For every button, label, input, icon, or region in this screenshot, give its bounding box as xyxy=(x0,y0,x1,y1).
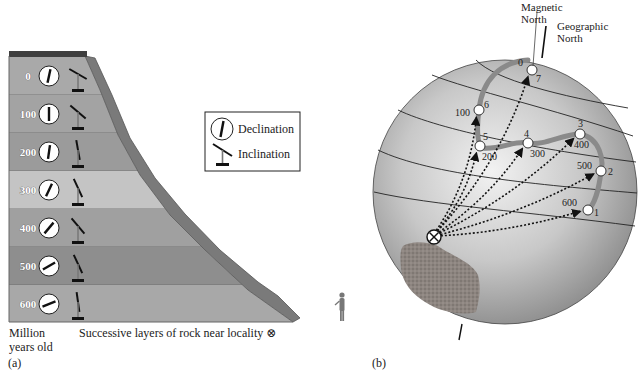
layer-age-label: 100 xyxy=(20,108,37,120)
legend-inclination-label: Inclination xyxy=(238,147,290,161)
legend-declination-label: Declination xyxy=(238,122,294,136)
geographic-axis-bottom xyxy=(459,324,462,340)
figure-canvas: 0100200300400500600 Declination Inclinat… xyxy=(0,0,639,380)
pole-index-label: 1 xyxy=(594,207,599,218)
pole-age-label: 500 xyxy=(577,160,592,171)
topsoil xyxy=(9,51,87,57)
pole-index-label: 5 xyxy=(483,131,488,142)
layer-age-label: 400 xyxy=(20,222,37,234)
pole-index-label: 6 xyxy=(484,99,489,110)
pole-index-label: 4 xyxy=(524,128,529,139)
pole-age-label: 400 xyxy=(574,139,589,150)
geographic-north-label-1: Geographic xyxy=(557,20,608,32)
rock-strata-cross-section: 0100200300400500600 xyxy=(9,51,309,323)
pole-index-label: 7 xyxy=(536,73,541,84)
layer-age-label: 0 xyxy=(25,70,31,82)
axis-label-years-old: years old xyxy=(9,340,53,354)
pole-index-label: 3 xyxy=(578,118,583,129)
legend: Declination Inclination xyxy=(205,112,300,171)
layer-age-label: 300 xyxy=(20,184,37,196)
magnetic-north-label-1: Magnetic xyxy=(521,1,563,13)
globe: 07100620053004400350026001 xyxy=(373,12,637,340)
pole-age-label: 100 xyxy=(455,107,470,118)
caption-successive-layers: Successive layers of rock near locality … xyxy=(79,326,276,340)
axis-label-million: Million xyxy=(9,326,45,340)
geographic-axis-top xyxy=(542,26,546,58)
layer-age-label: 600 xyxy=(20,298,37,310)
pole-age-label: 200 xyxy=(482,151,497,162)
geographic-north-label-2: North xyxy=(557,32,583,44)
layer-age-label: 500 xyxy=(20,260,37,272)
locality-marker-icon xyxy=(427,230,441,244)
panel-b-label: (b) xyxy=(372,356,386,370)
pole-age-label: 600 xyxy=(562,197,577,208)
pole-age-label: 300 xyxy=(530,148,545,159)
pole-index-label: 2 xyxy=(608,166,613,177)
declination-legend-icon xyxy=(211,118,233,140)
magnetic-north-label-2: North xyxy=(521,13,547,25)
pole-age-label: 0 xyxy=(518,57,523,68)
layer-age-label: 200 xyxy=(20,146,37,158)
person-icon xyxy=(335,292,345,321)
panel-a-label: (a) xyxy=(8,356,21,370)
